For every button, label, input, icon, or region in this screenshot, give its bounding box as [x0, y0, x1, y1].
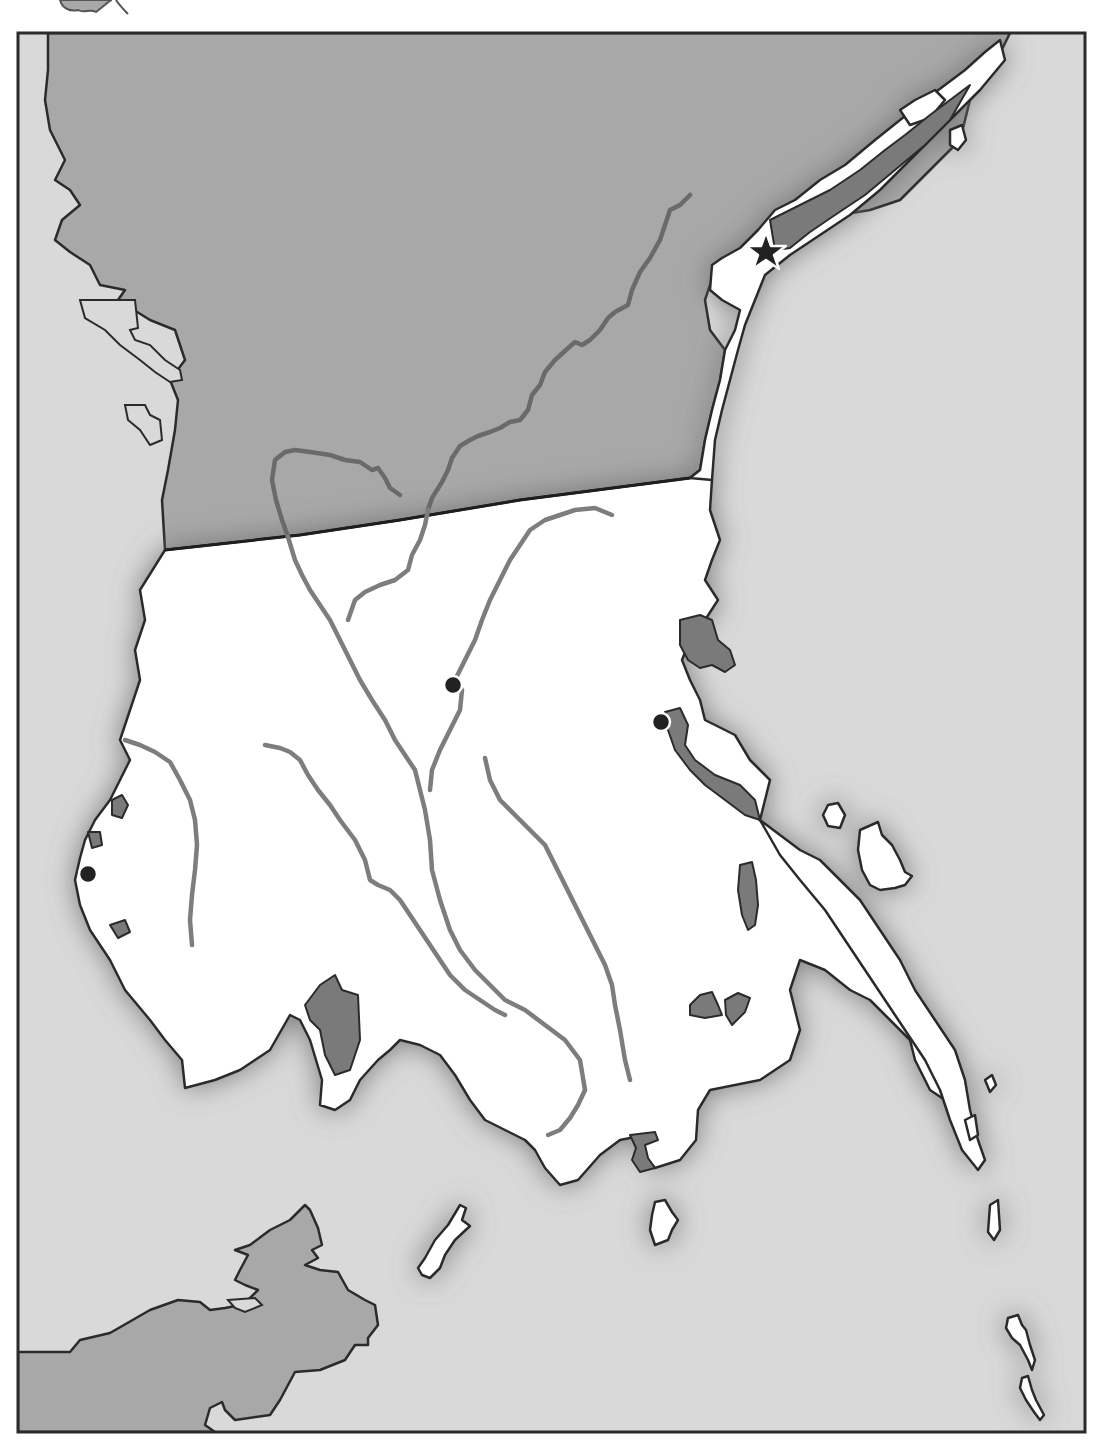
city-marker-west-coast[interactable] [79, 865, 97, 883]
offmap-line-fragment [116, 0, 128, 14]
islet-southeast-2 [988, 1200, 1000, 1240]
offmap-land-fragment [60, 0, 112, 12]
city-marker-central[interactable] [444, 676, 462, 694]
map-canvas [0, 0, 1097, 1449]
city-marker-east-coast[interactable] [652, 713, 670, 731]
